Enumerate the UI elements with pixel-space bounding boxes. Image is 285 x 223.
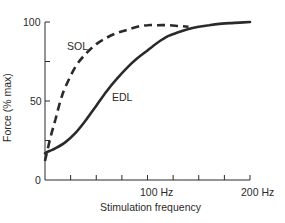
x-tick-label-200hz: 200 Hz bbox=[241, 186, 274, 198]
y-tick-label-50: 50 bbox=[30, 95, 42, 107]
x-tick-label-100hz: 100 Hz bbox=[140, 186, 173, 198]
sol-series-label: SOL bbox=[67, 40, 88, 52]
x-axis-title: Stimulation frequency bbox=[100, 201, 201, 213]
y-tick-label-0: 0 bbox=[35, 174, 41, 186]
force-frequency-chart: 100 50 0 100 Hz 200 Hz Stimulation frequ… bbox=[0, 0, 285, 223]
edl-series-label: EDL bbox=[112, 91, 132, 103]
y-axis-title: Force (% max) bbox=[1, 73, 13, 142]
y-tick-label-100: 100 bbox=[23, 16, 41, 28]
